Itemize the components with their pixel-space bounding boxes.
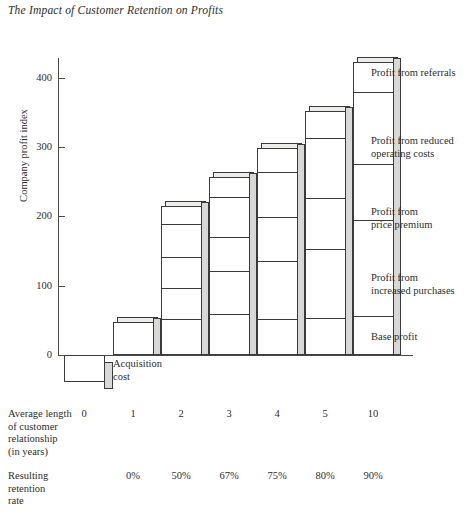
bar-segment-referrals <box>305 111 346 139</box>
y-tick-200 <box>58 216 65 217</box>
x-axis-title: Average length of customer relationship … <box>8 408 72 458</box>
retention-rate-5: 80% <box>305 470 345 481</box>
retention-rate-title: Resulting retention rate <box>8 470 48 508</box>
retention-rate-4: 75% <box>257 470 297 481</box>
bar-segment-base-profit <box>209 314 250 355</box>
bar-side-face <box>249 173 257 355</box>
bar-side-face <box>297 144 305 355</box>
y-tick-label-100: 100 <box>24 280 52 291</box>
y-tick-400 <box>58 78 65 79</box>
bar-segment-referrals <box>161 206 202 225</box>
retention-rate-2: 50% <box>161 470 201 481</box>
bar-side-face <box>153 318 161 355</box>
bar-segment-increased-purchases <box>209 271 250 315</box>
acquisition-cost-annotation: Acquisition cost <box>113 358 162 383</box>
legend-item-price-premium: Profit from price premium <box>371 206 433 231</box>
x-category-4: 4 <box>257 408 297 419</box>
x-category-10: 10 <box>353 408 393 419</box>
retention-rate-1: 0% <box>113 470 153 481</box>
bar-segment-increased-purchases <box>161 288 202 320</box>
bar-segment-reduced-operating-costs <box>209 197 250 238</box>
y-axis-line <box>58 58 59 355</box>
bar-segment-base-profit <box>257 319 298 355</box>
bar-segment-acquisition-cost <box>64 355 105 382</box>
bar-segment-increased-purchases <box>257 261 298 320</box>
bar-side-face <box>345 107 353 355</box>
bar-segment-price-premium <box>161 257 202 289</box>
bar-segment-base-profit <box>305 318 346 355</box>
legend-item-increased-purchases: Profit from increased purchases <box>371 272 455 297</box>
legend-item-reduced-operating-costs: Profit from reduced operating costs <box>371 135 454 160</box>
bar-segment-referrals <box>209 177 250 198</box>
x-category-3: 3 <box>209 408 249 419</box>
y-tick-300 <box>58 147 65 148</box>
y-tick-label-0: 0 <box>24 349 52 360</box>
bar-segment-base-profit <box>161 319 202 355</box>
bar-segment-reduced-operating-costs <box>161 224 202 258</box>
bar-segment-price-premium <box>305 198 346 250</box>
retention-rate-10: 90% <box>353 470 393 481</box>
bar-segment-increased-purchases <box>305 249 346 319</box>
legend-item-referrals: Profit from referrals <box>371 67 456 80</box>
chart-title: The Impact of Customer Retention on Prof… <box>8 4 223 16</box>
y-tick-label-200: 200 <box>24 210 52 221</box>
chart-root: The Impact of Customer Retention on Prof… <box>0 0 470 512</box>
x-category-0: 0 <box>64 408 104 419</box>
bar-side-face <box>104 362 113 389</box>
x-category-2: 2 <box>161 408 201 419</box>
legend-item-base-profit: Base profit <box>371 331 417 344</box>
x-category-5: 5 <box>305 408 345 419</box>
x-category-1: 1 <box>113 408 153 419</box>
y-tick-label-400: 400 <box>24 72 52 83</box>
y-tick-label-300: 300 <box>24 141 52 152</box>
bar-segment-reduced-operating-costs <box>257 172 298 218</box>
bar-segment-reduced-operating-costs <box>305 138 346 199</box>
retention-rate-3: 67% <box>209 470 249 481</box>
bar-segment-price-premium <box>257 217 298 262</box>
bar-segment-referrals <box>257 148 298 173</box>
bar-segment-price-premium <box>209 237 250 272</box>
y-tick-100 <box>58 286 65 287</box>
bar-segment-increased-purchases <box>353 220 394 317</box>
bar-segment-base-profit <box>113 322 154 355</box>
bar-side-face <box>201 202 209 355</box>
